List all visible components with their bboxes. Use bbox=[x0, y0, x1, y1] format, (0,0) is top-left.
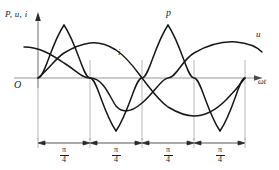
interval-label-1: π 4 bbox=[54, 146, 74, 164]
interval-denominator: 4 bbox=[54, 156, 74, 164]
dimension-lines bbox=[38, 141, 245, 145]
power-curve-label: p bbox=[166, 8, 171, 18]
interval-label-4: π 4 bbox=[210, 146, 230, 164]
interval-denominator: 4 bbox=[210, 156, 230, 164]
y-axis-label: P, u, i bbox=[5, 10, 27, 19]
interval-denominator: 4 bbox=[158, 156, 178, 164]
origin-label: O bbox=[14, 80, 21, 90]
y-axis-arrowhead bbox=[35, 12, 41, 21]
interval-numerator: π bbox=[210, 146, 230, 154]
current-curve-label: i bbox=[118, 48, 121, 57]
voltage-curve-label: u bbox=[256, 30, 261, 39]
interval-label-3: π 4 bbox=[158, 146, 178, 164]
interval-denominator: 4 bbox=[106, 156, 126, 164]
x-axis-label: ωt bbox=[258, 78, 266, 86]
current-curve bbox=[38, 43, 245, 116]
gridlines bbox=[38, 22, 245, 140]
interval-numerator: π bbox=[54, 146, 74, 154]
interval-label-2: π 4 bbox=[106, 146, 126, 164]
interval-numerator: π bbox=[106, 146, 126, 154]
x-axis bbox=[14, 75, 262, 80]
waveform-figure bbox=[0, 0, 279, 170]
interval-numerator: π bbox=[158, 146, 178, 154]
